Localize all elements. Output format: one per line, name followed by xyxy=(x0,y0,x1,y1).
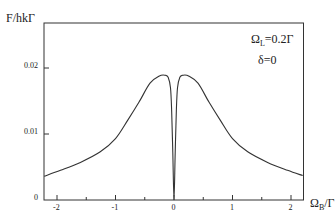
x-tick-label: 2 xyxy=(289,203,293,212)
annotation-omega-main: Ω xyxy=(251,32,260,46)
y-tick-label: 0.01 xyxy=(24,127,38,136)
x-axis-label-main: Ω xyxy=(310,196,319,210)
annotation-omega-l: ΩL=0.2Γ xyxy=(251,32,294,48)
annotation-omega-tail: =0.2Γ xyxy=(265,32,294,46)
x-axis-label-tail: /Γ xyxy=(324,196,334,210)
y-tick-label: 0 xyxy=(34,193,38,202)
y-axis-ticks xyxy=(44,68,49,134)
x-tick-label: 0 xyxy=(172,203,176,212)
x-tick-label: -1 xyxy=(112,203,119,212)
data-curve xyxy=(44,75,303,200)
x-axis-label: ΩB/Γ xyxy=(310,196,335,212)
annotation-delta: δ=0 xyxy=(258,53,276,68)
x-tick-label: -2 xyxy=(53,203,60,212)
y-tick-label: 0.02 xyxy=(24,61,38,70)
x-tick-label: 1 xyxy=(230,203,234,212)
y-axis-label: F/hkΓ xyxy=(6,11,35,26)
